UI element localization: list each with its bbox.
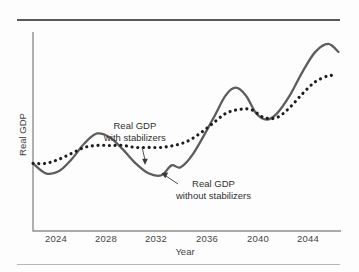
annotation-without-stabilizers-line1: Real GDP <box>176 178 251 190</box>
y-axis-title: Real GDP <box>17 97 28 173</box>
annotation-with-stabilizers-line1: Real GDP <box>104 120 166 132</box>
annotation-without-stabilizers: Real GDP without stabilizers <box>176 178 251 201</box>
chart-plot-area <box>0 0 359 272</box>
x-axis-title: Year <box>155 246 215 257</box>
chart-axes <box>33 32 341 231</box>
series-line-without-stabilizers <box>33 44 338 176</box>
leader-arrow-with-stabilizers <box>142 159 148 165</box>
annotation-without-stabilizers-line2: without stabilizers <box>176 190 251 202</box>
xtick-label-2: 2032 <box>136 233 176 244</box>
annotation-with-stabilizers: Real GDP with stabilizers <box>104 120 166 143</box>
xtick-label-3: 2036 <box>187 233 227 244</box>
figure-container: 2024 2028 2032 2036 2040 2044 Year Real … <box>0 0 359 272</box>
xtick-label-0: 2024 <box>36 233 76 244</box>
annotation-with-stabilizers-line2: with stabilizers <box>104 132 166 144</box>
xtick-label-1: 2028 <box>86 233 126 244</box>
xtick-label-4: 2040 <box>238 233 278 244</box>
xtick-label-5: 2044 <box>288 233 328 244</box>
